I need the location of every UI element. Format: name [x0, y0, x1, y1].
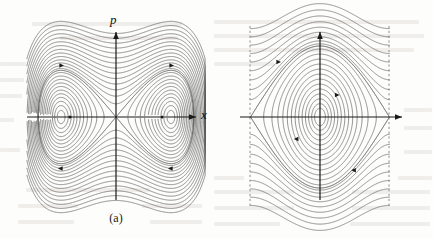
- direction-marker: [58, 166, 63, 170]
- direction-marker: [294, 137, 299, 141]
- phase-portrait-figure: (a) p x (a) p x (b): [0, 0, 433, 239]
- panel-b-plot: [216, 0, 433, 239]
- direction-marker: [168, 166, 173, 170]
- panel-a: (a) p x (a): [0, 0, 216, 239]
- panel-a-x-label: x: [201, 107, 207, 123]
- panel-b: p x (b): [216, 0, 433, 239]
- direction-marker: [169, 63, 174, 67]
- direction-marker: [59, 63, 64, 67]
- panel-a-plot: [0, 0, 216, 239]
- panel-a-caption: (a): [96, 211, 136, 226]
- panel-a-p-label: p: [110, 12, 117, 28]
